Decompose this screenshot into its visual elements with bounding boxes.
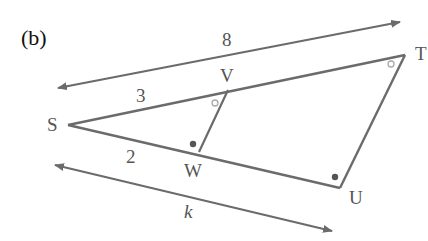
similar-triangles-diagram: (b) 8 k S V T W U 3 2 (0, 0, 428, 241)
segment-tu (340, 55, 405, 188)
segment-vw (199, 90, 228, 152)
vertex-label-w: W (184, 160, 202, 181)
segment-st (68, 55, 405, 125)
measure-label-sv: 3 (136, 85, 146, 106)
vertex-label-s: S (47, 114, 58, 135)
angle-marker-v-circle (212, 100, 218, 106)
vertex-label-v: V (220, 65, 234, 86)
measure-label-sw: 2 (126, 146, 136, 167)
angle-marker-u-dot (332, 174, 338, 180)
vertex-label-t: T (415, 43, 427, 64)
measure-label-su: k (184, 201, 193, 222)
measure-label-st: 8 (222, 29, 232, 50)
vertex-label-u: U (349, 187, 363, 208)
angle-marker-w-dot (190, 141, 196, 147)
part-label: (b) (21, 25, 47, 50)
angle-marker-t-circle (388, 61, 394, 67)
